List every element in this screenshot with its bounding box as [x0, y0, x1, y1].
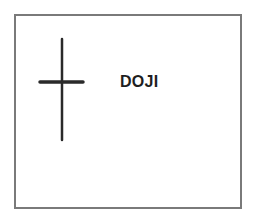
pattern-label: DOJI [120, 73, 159, 91]
doji-candlestick-icon [0, 0, 260, 222]
